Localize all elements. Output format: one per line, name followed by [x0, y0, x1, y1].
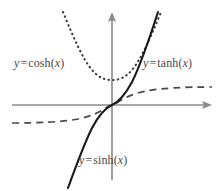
- label-tanh-equals: =: [148, 56, 157, 70]
- label-tanh: y=tanh(x): [143, 57, 192, 69]
- label-tanh-close-paren: ): [188, 56, 192, 70]
- label-sinh-equals: =: [84, 153, 93, 167]
- label-cosh-close-paren: ): [60, 56, 64, 70]
- label-cosh-fn: cosh: [28, 56, 50, 70]
- label-sinh-close-paren: ): [123, 153, 127, 167]
- label-cosh: y=cosh(x): [14, 57, 64, 69]
- hyperbolic-functions-figure: y=cosh(x) y=tanh(x) y=sinh(x): [0, 0, 222, 191]
- label-sinh-fn: sinh: [93, 153, 113, 167]
- label-sinh: y=sinh(x): [79, 154, 127, 166]
- label-cosh-equals: =: [19, 56, 28, 70]
- label-tanh-fn: tanh: [157, 56, 178, 70]
